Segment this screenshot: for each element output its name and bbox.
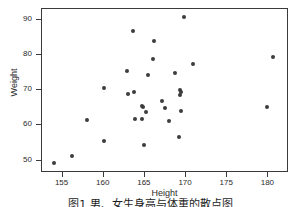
x-axis-tick-label: 170 bbox=[170, 179, 200, 187]
data-point bbox=[70, 154, 74, 158]
data-point bbox=[85, 118, 89, 122]
data-point bbox=[102, 86, 106, 90]
data-point bbox=[182, 15, 186, 19]
data-point bbox=[126, 92, 130, 96]
scatter-plot-figure: 5060708090155160165170175180 Height Weig… bbox=[0, 0, 301, 207]
x-axis-tick bbox=[103, 172, 104, 177]
data-point bbox=[102, 139, 106, 143]
data-point bbox=[133, 117, 137, 121]
data-point bbox=[140, 117, 144, 121]
y-axis-tick bbox=[36, 19, 41, 20]
x-axis-tick bbox=[144, 172, 145, 177]
y-axis-title: Weight bbox=[10, 58, 19, 108]
x-axis-tick bbox=[226, 172, 227, 177]
data-point bbox=[125, 69, 129, 73]
data-point bbox=[163, 106, 167, 110]
x-axis-tick-label: 155 bbox=[47, 179, 77, 187]
data-point bbox=[131, 29, 135, 33]
data-point bbox=[265, 105, 269, 109]
data-point bbox=[152, 39, 156, 43]
y-axis-tick-label: 90 bbox=[6, 15, 32, 23]
data-point bbox=[191, 62, 195, 66]
data-point bbox=[167, 119, 171, 123]
y-axis-tick bbox=[36, 160, 41, 161]
x-axis-tick bbox=[185, 172, 186, 177]
figure-caption: 图1 男、女生身高与体重的散点图 bbox=[0, 198, 301, 207]
data-point bbox=[142, 143, 146, 147]
data-point bbox=[52, 161, 56, 165]
data-points-layer bbox=[42, 9, 287, 171]
x-axis-tick bbox=[62, 172, 63, 177]
data-point bbox=[160, 99, 164, 103]
x-axis-tick bbox=[267, 172, 268, 177]
data-point bbox=[144, 110, 148, 114]
data-point bbox=[177, 135, 181, 139]
plot-frame bbox=[41, 8, 288, 172]
data-point bbox=[178, 93, 182, 97]
data-point bbox=[179, 109, 183, 113]
x-axis-tick-label: 165 bbox=[129, 179, 159, 187]
y-axis-tick-label: 50 bbox=[6, 156, 32, 164]
data-point bbox=[173, 71, 177, 75]
x-axis-tick-label: 160 bbox=[88, 179, 118, 187]
data-point bbox=[146, 73, 150, 77]
x-axis-tick-label: 175 bbox=[211, 179, 241, 187]
data-point bbox=[151, 57, 155, 61]
y-axis-tick-label: 60 bbox=[6, 120, 32, 128]
x-axis-title: Height bbox=[41, 189, 288, 198]
y-axis-tick bbox=[36, 124, 41, 125]
data-point bbox=[141, 105, 145, 109]
y-axis-tick bbox=[36, 54, 41, 55]
data-point bbox=[132, 90, 136, 94]
x-axis-tick-label: 180 bbox=[252, 179, 282, 187]
data-point bbox=[271, 55, 275, 59]
y-axis-tick bbox=[36, 89, 41, 90]
